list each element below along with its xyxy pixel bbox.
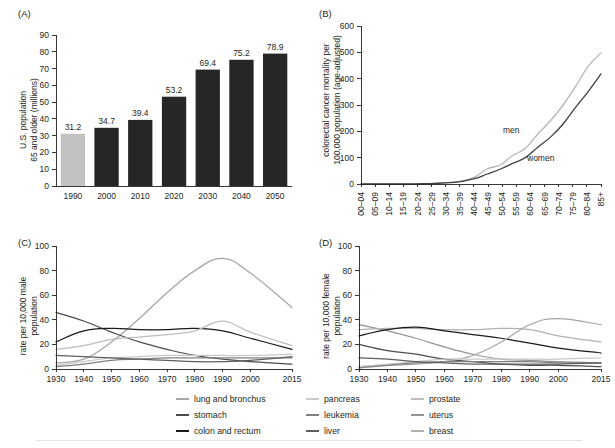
panel-a-y-tick-label: 80: [40, 47, 50, 57]
panel-a-bar-value: 31.2: [65, 122, 82, 132]
legend-item: leukemia: [306, 408, 411, 421]
panel-b-x-tick-label: 05–09: [370, 192, 380, 216]
panel-a-bar-value: 39.4: [132, 108, 149, 118]
x-tick-label: 1930: [47, 374, 66, 384]
legend-column-1: lung and bronchus stomach colon and rect…: [176, 392, 306, 437]
panel-d-label: (D): [319, 237, 332, 248]
panel-c-series: [56, 258, 292, 366]
legend-swatch-icon: [306, 414, 319, 416]
panel-b-series-line: [361, 74, 601, 184]
panel-b-y-tick-label: 300: [340, 100, 354, 110]
legend-label: stomach: [194, 410, 227, 420]
x-tick-label: 1970: [463, 374, 482, 384]
panel-a-label: (A): [18, 8, 31, 19]
panel-a-x-tick-label: 1990: [63, 191, 82, 201]
figure-legend: lung and bronchus stomach colon and rect…: [0, 392, 615, 448]
y-tick-label: 80: [40, 266, 50, 276]
panel-b-y-tick-label: 100: [340, 153, 354, 163]
legend-swatch-icon: [306, 398, 319, 400]
panel-a-y-tick-label: 20: [40, 147, 50, 157]
x-tick-label: 1950: [102, 374, 121, 384]
panel-a-x-tick-label: 2000: [97, 191, 116, 201]
panel-a-bar: [61, 134, 85, 186]
figure-container: (A) U.S. population 65 and older (millio…: [0, 0, 615, 448]
panel-a-y-ticks: 0102030405060708090: [40, 30, 56, 191]
x-tick-label: 1980: [185, 374, 204, 384]
footer-divider: [36, 440, 582, 441]
panel-a-bar: [263, 54, 287, 186]
panel-b-y-tick-label: 0: [349, 179, 354, 189]
panel-b-y-tick-label: 600: [340, 21, 354, 31]
x-tick-label: 1980: [492, 374, 511, 384]
panel-b-x-tick-label: 55–59: [511, 192, 521, 216]
y-tick-label: 40: [40, 315, 50, 325]
panel-c-x-ticks: 193019401950196019701980199020002015: [47, 369, 302, 384]
panel-b-women-annotation: women: [526, 153, 555, 163]
panel-a-bar-value: 69.4: [199, 58, 216, 68]
series-line: [359, 325, 601, 363]
panel-b-x-tick-label: 30–34: [441, 192, 451, 216]
svg-text:65 and older (millions): 65 and older (millions): [29, 78, 39, 162]
legend-item: lung and bronchus: [176, 392, 306, 405]
panel-a-x-tick-label: 2010: [131, 191, 150, 201]
panel-a-bar: [94, 128, 118, 186]
panel-b-x-tick-label: 25–29: [427, 192, 437, 216]
y-tick-label: 20: [343, 339, 353, 349]
legend-label: leukemia: [324, 410, 359, 420]
legend-column-2: pancreas leukemia liver: [306, 392, 411, 437]
legend-label: liver: [324, 426, 340, 436]
panel-a-bar: [162, 97, 186, 186]
legend-label: colon and rectum: [194, 426, 261, 436]
y-tick-label: 0: [347, 364, 352, 374]
x-tick-label: 1930: [350, 374, 369, 384]
panel-a-y-tick-label: 40: [40, 114, 50, 124]
panel-b-label: (B): [319, 8, 332, 19]
panel-a-y-tick-label: 50: [40, 97, 50, 107]
x-tick-label: 1960: [130, 374, 149, 384]
legend-item: uterus: [411, 408, 516, 421]
panel-a-x-ticks: 1990200020102020203020402050: [63, 191, 284, 201]
svg-text:rate per 10,000 male: rate per 10,000 male: [18, 277, 28, 356]
series-line: [359, 327, 601, 353]
legend-label: prostate: [429, 394, 460, 404]
y-tick-label: 20: [40, 339, 50, 349]
panel-a-bars: 31.234.739.453.269.475.278.9: [61, 42, 288, 186]
x-tick-label: 1960: [435, 374, 454, 384]
panel-a-bar-value: 78.9: [267, 42, 284, 52]
panel-a-y-tick-label: 30: [40, 131, 50, 141]
legend-item: pancreas: [306, 392, 411, 405]
panel-a-y-tick-label: 60: [40, 80, 50, 90]
legend-swatch-icon: [306, 430, 319, 432]
y-tick-label: 40: [343, 315, 353, 325]
panel-b-x-tick-label: 20–24: [413, 192, 423, 216]
panel-d-y-axis-title: rate per 10,000 female population: [321, 273, 342, 359]
panel-b-x-tick-label: 60–64: [525, 192, 535, 216]
y-tick-label: 100: [338, 241, 352, 251]
legend-item: breast: [411, 424, 516, 437]
panel-d-series: [359, 319, 601, 368]
panel-b-x-tick-label: 10–14: [384, 192, 394, 216]
series-line: [56, 328, 292, 349]
y-tick-label: 0: [44, 364, 49, 374]
panel-b-x-tick-label: 85+: [596, 192, 606, 206]
x-tick-label: 1940: [378, 374, 397, 384]
legend-swatch-icon: [411, 398, 424, 400]
panel-b-series: [361, 53, 601, 184]
legend-label: uterus: [429, 410, 453, 420]
panel-b-x-tick-label: 50–54: [497, 192, 507, 216]
panel-c-label: (C): [18, 237, 31, 248]
y-tick-label: 60: [40, 290, 50, 300]
legend-swatch-icon: [411, 430, 424, 432]
series-line: [56, 312, 292, 364]
panel-b-x-tick-label: 45–49: [483, 192, 493, 216]
panel-a-y-tick-label: 90: [40, 30, 50, 40]
x-tick-label: 1990: [520, 374, 539, 384]
panel-a-bar: [229, 60, 253, 186]
legend-label: pancreas: [324, 394, 360, 404]
panel-b-men-annotation: men: [503, 125, 520, 135]
panel-a-bar-chart: (A) U.S. population 65 and older (millio…: [0, 0, 305, 222]
svg-text:population: population: [332, 296, 342, 336]
legend-item: prostate: [411, 392, 516, 405]
panel-a-y-axis-title: U.S. population 65 and older (millions): [18, 78, 39, 162]
panel-a-x-tick-label: 2040: [232, 191, 251, 201]
